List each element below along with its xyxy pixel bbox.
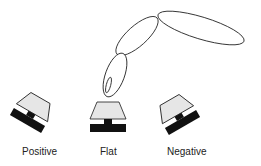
label-negative: Negative (167, 146, 206, 157)
finger-distal-segment (98, 50, 132, 100)
diagram-canvas (0, 0, 261, 166)
keycap-flat-base (90, 124, 126, 132)
keycap-negative (154, 91, 200, 135)
keycap-flat-cap (90, 102, 126, 119)
label-flat: Flat (100, 146, 117, 157)
keycap-flat (90, 102, 126, 132)
keycap-positive (10, 89, 56, 133)
finger-illustration (98, 4, 247, 100)
keycap-flat-stem (104, 119, 112, 124)
finger-proximal-segment (155, 4, 247, 51)
label-positive: Positive (22, 146, 57, 157)
